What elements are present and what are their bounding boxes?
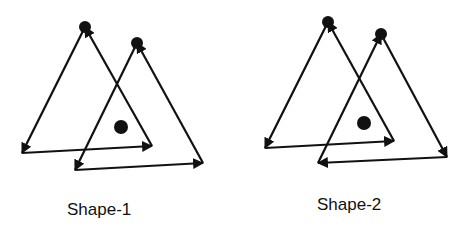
apex-dot bbox=[322, 16, 334, 28]
center-dot bbox=[114, 120, 128, 134]
shape-1-label: Shape-1 bbox=[67, 200, 131, 220]
arrow-edge-bottom-right-to-apex bbox=[137, 43, 203, 163]
apex-dot bbox=[375, 28, 387, 40]
arrow-edge-apex-to-bottom-left bbox=[22, 27, 85, 153]
shape-1-figure bbox=[22, 21, 203, 170]
diagram-canvas bbox=[0, 0, 468, 233]
shape-2-label: Shape-2 bbox=[317, 195, 381, 215]
arrow-edge-apex-to-bottom-left bbox=[75, 43, 137, 170]
shape-2-figure bbox=[265, 16, 447, 163]
apex-dot bbox=[131, 37, 143, 49]
arrow-edge-bottom-left-to-bottom-right bbox=[75, 163, 203, 170]
apex-dot bbox=[79, 21, 91, 33]
arrow-edge-bottom-right-to-bottom-left bbox=[318, 157, 447, 163]
arrow-edge-apex-to-bottom-right bbox=[381, 34, 447, 157]
arrow-edge-bottom-left-to-bottom-right bbox=[265, 141, 394, 148]
arrow-edge-apex-to-bottom-left bbox=[265, 22, 328, 148]
center-dot bbox=[357, 116, 371, 130]
